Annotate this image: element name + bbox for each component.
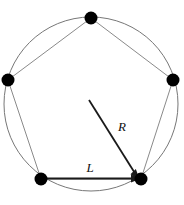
diagram-canvas: R L [0,0,184,205]
vertex-bottom-left [35,173,48,186]
vertex-bottom-right [135,173,148,186]
side-length-label: L [85,160,93,175]
vertex-right [167,74,180,87]
radius-label: R [117,119,126,134]
vertex-left [2,74,15,87]
pentagon-edge-bottom-left [8,80,41,179]
vertex-top [85,12,98,25]
pentagon-edge-right-bottom [141,80,173,179]
radius-arrow-line [89,100,135,173]
geometry-diagram: R L [0,0,184,205]
